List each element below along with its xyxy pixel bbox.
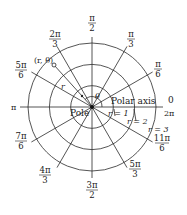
- theta-label: θ: [95, 92, 100, 101]
- label-pi-6: π 6: [154, 59, 162, 79]
- label-5pi-6: 5π 6: [15, 60, 27, 80]
- label-2pi-3: 2π 3: [49, 29, 61, 49]
- label-3pi-2: 3π 2: [86, 180, 98, 200]
- svg-text:3π: 3π: [87, 180, 98, 190]
- radius-arrow-dot: [81, 95, 83, 97]
- svg-text:3: 3: [128, 39, 133, 49]
- svg-text:5π: 5π: [16, 60, 27, 70]
- svg-text:3: 3: [52, 39, 57, 49]
- label-pi: π: [11, 103, 16, 112]
- radius-label: r: [61, 82, 66, 91]
- r3-label: r = 3: [148, 125, 169, 134]
- svg-text:2π: 2π: [50, 29, 61, 39]
- svg-text:6: 6: [159, 143, 164, 153]
- polar-axis-label: Polar axis: [111, 96, 156, 106]
- r2-label: r = 2: [127, 117, 148, 126]
- label-pi-3: π 3: [127, 29, 135, 49]
- svg-text:7π: 7π: [16, 131, 27, 141]
- point-label: (r, θ): [34, 56, 53, 65]
- polar-diagram: π 2 2π 3 π 3 5π 6 π 6 π 0 2π 7π 6 11π 6 …: [0, 0, 187, 215]
- svg-text:4π: 4π: [40, 165, 51, 175]
- svg-text:π: π: [89, 13, 95, 23]
- pole-label: Pole: [70, 108, 89, 118]
- radius-segment: [54, 65, 92, 107]
- label-0: 0: [168, 95, 174, 105]
- label-7pi-6: 7π 6: [15, 131, 27, 151]
- svg-text:2: 2: [89, 23, 94, 33]
- svg-text:2: 2: [89, 190, 94, 200]
- label-4pi-3: 4π 3: [39, 165, 51, 185]
- pole-dot: [90, 105, 94, 109]
- svg-text:3: 3: [132, 169, 137, 179]
- label-pi-2: π 2: [88, 13, 96, 33]
- svg-text:6: 6: [18, 70, 23, 80]
- svg-text:5π: 5π: [130, 159, 141, 169]
- svg-text:11π: 11π: [154, 133, 171, 143]
- r1-label: r = 1: [108, 109, 129, 118]
- label-11pi-6: 11π 6: [154, 133, 171, 153]
- svg-text:π: π: [128, 29, 134, 39]
- svg-text:3: 3: [42, 175, 47, 185]
- svg-text:π: π: [155, 59, 161, 69]
- svg-text:6: 6: [155, 69, 160, 79]
- label-5pi-3: 5π 3: [129, 159, 141, 179]
- svg-text:6: 6: [18, 141, 23, 151]
- label-2pi: 2π: [164, 109, 174, 118]
